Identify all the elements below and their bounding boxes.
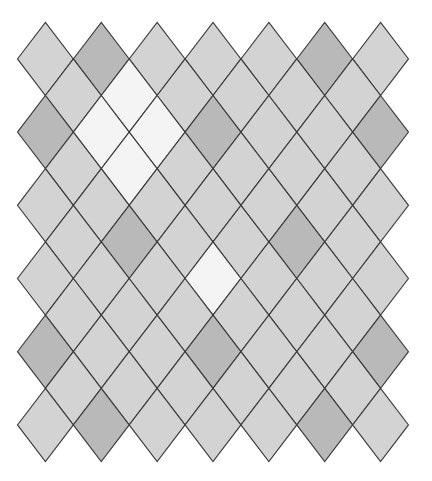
- diamond-tiling-diagram: [0, 0, 432, 481]
- diamond-tiles-group: [17, 22, 408, 461]
